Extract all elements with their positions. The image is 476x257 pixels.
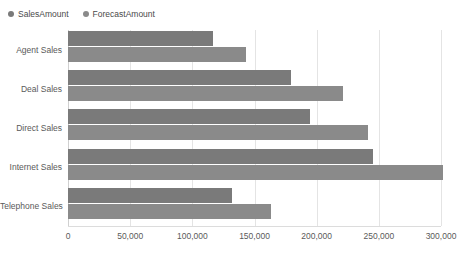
x-axis-tick-label: 300,000 — [426, 230, 457, 242]
gridline — [441, 30, 442, 226]
bar-group — [68, 148, 441, 187]
bar-sales[interactable] — [68, 149, 373, 164]
x-axis-tick-label: 250,000 — [363, 230, 394, 242]
x-axis-tick-label: 100,000 — [177, 230, 208, 242]
bar-forecast[interactable] — [68, 125, 368, 140]
y-axis-tick-label: Internet Sales — [0, 162, 62, 172]
x-axis-tick-label: 0 — [66, 230, 71, 242]
bar-sales[interactable] — [68, 188, 232, 203]
legend-item-label: ForecastAmount — [93, 9, 155, 19]
bar-group — [68, 108, 441, 147]
bar-forecast[interactable] — [68, 204, 271, 219]
y-axis-tick-label: Deal Sales — [0, 84, 62, 94]
bar-sales[interactable] — [68, 31, 213, 46]
bar-sales[interactable] — [68, 109, 310, 124]
y-axis-tick-label: Direct Sales — [0, 123, 62, 133]
x-axis-tick-label: 150,000 — [239, 230, 270, 242]
bar-forecast[interactable] — [68, 165, 443, 180]
legend-item[interactable]: ForecastAmount — [83, 9, 155, 19]
bar-group — [68, 30, 441, 69]
bar-sales[interactable] — [68, 70, 291, 85]
y-axis-tick-labels: Agent SalesDeal SalesDirect SalesInterne… — [0, 30, 62, 226]
bar-group — [68, 187, 441, 226]
legend-marker-icon — [8, 11, 14, 17]
x-axis-tick-labels: 050,000100,000150,000200,000250,000300,0… — [0, 230, 476, 246]
bar-chart: SalesAmountForecastAmount Agent SalesDea… — [0, 0, 476, 257]
x-axis-tick-label: 200,000 — [301, 230, 332, 242]
legend-marker-icon — [83, 11, 89, 17]
y-axis-tick-label: Telephone Sales — [0, 201, 62, 211]
plot-area — [68, 30, 441, 226]
y-axis-tick-label: Agent Sales — [0, 45, 62, 55]
legend-item[interactable]: SalesAmount — [8, 9, 69, 19]
x-axis-tick-label: 50,000 — [117, 230, 143, 242]
bar-forecast[interactable] — [68, 47, 246, 62]
bar-group — [68, 69, 441, 108]
x-axis-line — [68, 226, 441, 227]
chart-legend: SalesAmountForecastAmount — [8, 7, 155, 21]
bar-forecast[interactable] — [68, 86, 343, 101]
legend-item-label: SalesAmount — [18, 9, 69, 19]
